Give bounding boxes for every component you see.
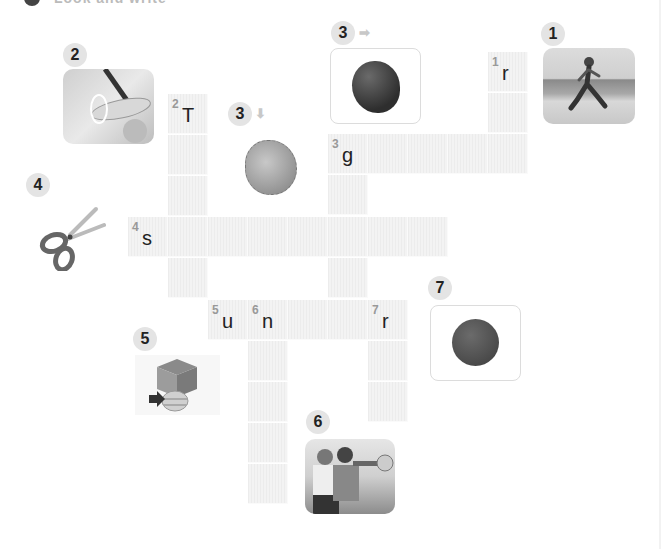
cell-letter: u [222,310,233,333]
cell-letter: g [342,144,353,167]
exercise-bullet-icon [24,0,40,6]
crossword-cell[interactable] [368,382,408,422]
arrow-down-icon: ⬇ [255,106,266,121]
clue-badge-7: 7 [428,276,452,300]
clue-badge-1: 1 [541,22,565,46]
people-trumpet-icon [305,439,395,514]
touch-finger-icon [63,69,154,144]
clue-badge-4: 4 [26,173,50,197]
clue-number: 2 [172,97,179,111]
arrow-right-icon: ➡ [359,25,370,40]
header-strip: Look and write [0,0,665,6]
crossword-cell[interactable] [168,217,208,257]
runner-figure-icon [543,48,635,124]
crossword-cell-5across-1[interactable]: 5 u [208,300,248,340]
finger-touching-screen-photo [63,69,154,144]
clue-number: 6 [252,303,259,317]
crossword-cell[interactable] [168,135,208,175]
cell-letter: n [262,310,273,333]
crossword-cell[interactable] [328,175,368,215]
crossword-cell[interactable] [248,341,288,381]
crossword-cell[interactable] [368,217,408,257]
cell-letter: r [502,62,509,85]
crossword-cell[interactable] [288,300,328,340]
crossword-cell[interactable] [168,176,208,216]
clue-number: 3 [332,137,339,151]
crossword-cell[interactable] [248,382,288,422]
crossword-cell-2down-1[interactable]: 2 T [168,94,208,134]
crossword-cell[interactable] [488,134,528,174]
scissors-picture [38,205,106,271]
crossword-cell[interactable] [368,134,408,174]
green-blob [352,61,400,113]
clue-badge-3-across: 3 [331,21,355,45]
cell-letter: T [182,104,194,127]
clue-number: 5 [212,303,219,317]
crossword-cell[interactable] [168,258,208,298]
crossword-cell[interactable] [328,258,368,298]
scissors-icon [38,205,106,271]
crossword-cell[interactable] [408,134,448,174]
crossword-cell[interactable] [208,217,248,257]
crossword-cell[interactable] [288,217,328,257]
cell-letter: s [142,227,152,250]
crossword-cell-3across-1[interactable]: 3 g [328,134,368,174]
page-divider [659,0,661,549]
crossword-cell[interactable] [408,217,448,257]
exercise-title: Look and write [54,0,167,5]
clue-number: 1 [492,55,499,69]
green-blob-picture [330,48,421,124]
crossword-cell[interactable] [368,341,408,381]
clue-badge-5: 5 [133,327,157,351]
crossword-cell[interactable] [488,93,528,133]
box-ball-icon [135,355,220,415]
red-dot-picture [430,305,521,381]
trumpet-players-photo [305,439,395,514]
red-dot [452,319,499,366]
clue-number: 4 [132,220,139,234]
crossword-cell-1down-1[interactable]: 1 r [488,52,528,92]
girl-running-photo [543,48,635,124]
crossword-cell[interactable] [328,217,368,257]
clue-badge-6: 6 [306,410,330,434]
crossword-cell-6down-1[interactable]: 6 n [248,300,288,340]
clue-badge-2: 2 [63,43,87,67]
crossword-cell[interactable] [248,423,288,463]
baseball-glove-picture [245,140,297,195]
crossword-cell[interactable] [248,217,288,257]
crossword-cell[interactable] [328,300,368,340]
crossword-cell-4across-1[interactable]: 4 s [128,217,168,257]
cell-letter: r [382,310,389,333]
ball-under-box-picture [135,355,220,415]
clue-number: 7 [372,303,379,317]
crossword-cell-7down-1[interactable]: 7 r [368,300,408,340]
crossword-cell[interactable] [448,134,488,174]
crossword-cell[interactable] [248,464,288,504]
clue-badge-3-down: 3 [228,102,252,126]
